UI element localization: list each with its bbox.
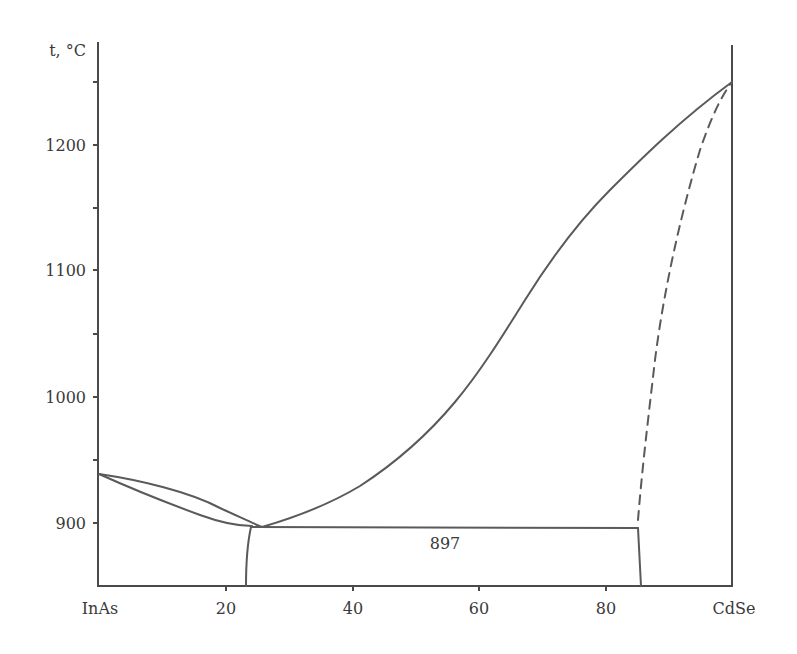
y-label-1000: 1000 <box>45 388 86 407</box>
phase-diagram: t, °C 1200 1100 1000 900 InAs 20 40 60 8… <box>0 0 797 654</box>
eutectic-line <box>251 527 638 528</box>
y-label-1100: 1100 <box>45 261 86 280</box>
x-label-60: 60 <box>469 599 489 618</box>
solvus-cdse-side <box>638 528 641 586</box>
liquidus-cdse-side <box>262 82 732 527</box>
y-label-1200: 1200 <box>45 136 86 155</box>
liquidus-inas-side <box>99 474 262 527</box>
x-label-40: 40 <box>343 599 363 618</box>
solidus-inas-side <box>99 474 252 526</box>
x-label-80: 80 <box>596 599 616 618</box>
y-axis-title: t, °C <box>49 41 86 60</box>
solvus-inas-side <box>246 527 251 586</box>
x-label-cdse: CdSe <box>713 599 756 618</box>
x-label-inas: InAs <box>82 599 118 618</box>
x-label-20: 20 <box>216 599 236 618</box>
y-label-900: 900 <box>55 514 86 533</box>
eutectic-temperature-label: 897 <box>430 534 461 553</box>
